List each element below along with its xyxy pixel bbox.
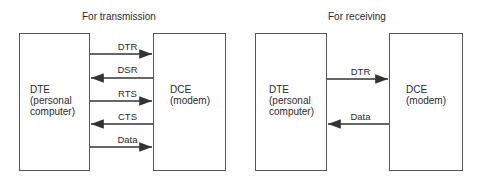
dce-name-receiving: DCE xyxy=(406,84,427,95)
signal-label: Data xyxy=(333,111,388,122)
signal-label: Data xyxy=(100,134,155,145)
signal-label: DTR xyxy=(333,66,388,77)
dte-name-transmission: DTE xyxy=(30,84,50,95)
signal-label: CTS xyxy=(100,111,155,122)
receiving-title: For receiving xyxy=(328,11,386,22)
signal-label: RTS xyxy=(100,88,155,99)
dce-sub-transmission: (modem) xyxy=(170,95,210,106)
signal-label: DTR xyxy=(100,41,155,52)
dce-sub-receiving: (modem) xyxy=(406,95,446,106)
dte-sub-transmission: (personal computer) xyxy=(30,95,75,117)
transmission-title: For transmission xyxy=(82,11,156,22)
dte-name-receiving: DTE xyxy=(269,84,289,95)
dte-sub-receiving: (personal computer) xyxy=(269,95,314,117)
signal-label: DSR xyxy=(100,64,155,75)
dce-name-transmission: DCE xyxy=(170,84,191,95)
